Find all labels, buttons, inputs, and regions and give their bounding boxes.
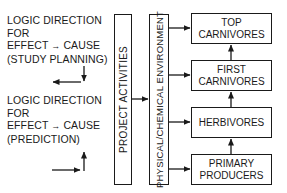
connector-arrows xyxy=(0,0,287,193)
